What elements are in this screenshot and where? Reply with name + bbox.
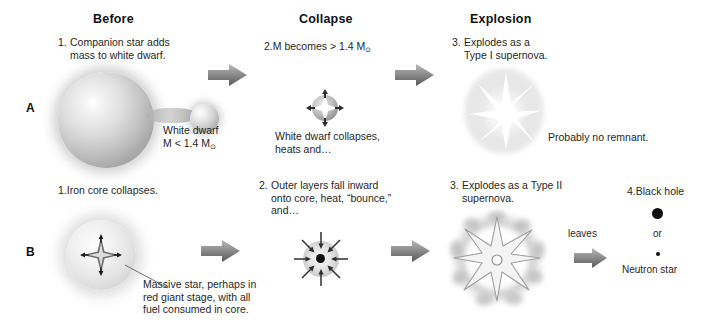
companion-star-sphere: [58, 72, 154, 168]
step-b1: 1.Iron core collapses.: [58, 180, 228, 198]
infall-arrows: [290, 228, 352, 290]
type-ii-shell-and-star: [444, 205, 550, 311]
supernova-star-burst: [466, 70, 544, 152]
step-b1-text: Iron core collapses.: [67, 184, 158, 196]
step-a1-text: Companion star adds mass to white dwarf.: [70, 36, 210, 61]
flow-arrow-b-collapse-to-explosion: [390, 238, 432, 264]
flow-arrow-a-before-to-collapse: [207, 62, 249, 88]
collapse-star-and-arrows: [305, 88, 345, 128]
caption-no-remnant: Probably no remnant.: [548, 131, 648, 144]
step-a2-number: 2.: [264, 40, 273, 52]
black-hole-dot: [652, 208, 663, 219]
neutron-star-dot: [656, 252, 660, 256]
step-b3-text: Explodes as a Type II supernova.: [462, 179, 604, 204]
step-b4-number: 4.: [627, 185, 636, 197]
step-b2-number: 2.: [259, 179, 271, 192]
step-b2-text: Outer layers fall inward onto core, heat…: [271, 179, 416, 217]
caption-white-dwarf-mass: White dwarf M < 1.4 M⊙: [163, 124, 218, 153]
flow-arrow-a-collapse-to-explosion: [394, 62, 436, 88]
supernova-diagram: Before Collapse Explosion A B 1.Companio…: [0, 0, 707, 323]
column-header-collapse: Collapse: [299, 12, 353, 26]
flow-arrow-b-explosion-to-remnant: [573, 246, 609, 270]
leaves-label: leaves: [568, 228, 597, 239]
solar-symbol-a2: ⊙: [365, 46, 371, 53]
step-a3-number: 3.: [452, 36, 464, 49]
type-ii-supernova-graphic: [444, 205, 550, 315]
row-letter-a: A: [26, 101, 35, 115]
step-b3: 3.Explodes as a Type II supernova.: [450, 179, 610, 204]
step-b4-text: Black hole: [636, 185, 684, 197]
neutron-star-label: Neutron star: [622, 264, 677, 275]
caption-white-dwarf-collapse: White dwarf collapses, heats and…: [275, 130, 380, 155]
step-b2: 2.Outer layers fall inward onto core, he…: [259, 179, 419, 217]
step-b3-number: 3.: [450, 179, 462, 192]
solar-symbol-a1: ⊙: [210, 143, 216, 150]
column-header-explosion: Explosion: [470, 12, 532, 26]
step-a1: 1.Companion star adds mass to white dwar…: [58, 36, 218, 61]
caption-massive-star: Massive star, perhaps in red giant stage…: [143, 278, 256, 316]
step-a2: 2.M becomes > 1.4 M⊙: [264, 36, 414, 54]
step-a2-text: M becomes > 1.4 M: [273, 40, 366, 52]
column-header-before: Before: [93, 12, 134, 26]
step-a1-number: 1.: [58, 36, 70, 49]
step-a3-text: Explodes as a Type I supernova.: [464, 36, 594, 61]
iron-core-star-and-arrows: [80, 234, 122, 276]
flow-arrow-b-before-to-collapse: [200, 238, 242, 264]
row-letter-b: B: [26, 245, 35, 259]
step-b1-number: 1.: [58, 184, 67, 196]
or-label: or: [653, 228, 662, 239]
step-a3: 3.Explodes as a Type I supernova.: [452, 36, 602, 61]
step-b4: 4.Black hole: [627, 181, 684, 199]
